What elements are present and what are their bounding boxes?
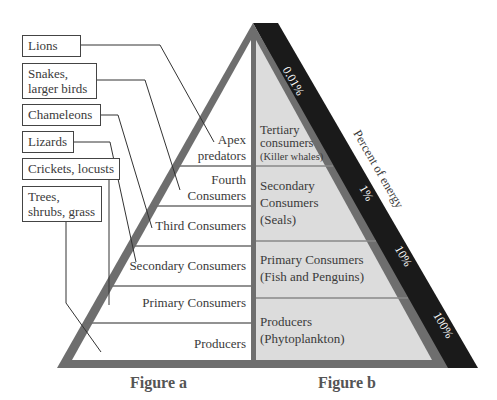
- organism-label-line1: Trees,: [28, 189, 96, 204]
- level-fourth-line1: Fourth: [211, 172, 246, 187]
- organism-box-lions: Lions: [22, 35, 81, 57]
- b-primary-line2: (Fish and Penguins): [260, 269, 364, 284]
- level-primary: Primary Consumers: [142, 295, 246, 310]
- level-third: Third Consumers: [155, 218, 246, 233]
- b-secondary-line1: Secondary: [260, 178, 315, 193]
- organism-box-trees: Trees, shrubs, grass: [22, 186, 102, 222]
- level-secondary: Secondary Consumers: [129, 258, 246, 273]
- organism-label: Lizards: [28, 134, 68, 149]
- b-producers-line1: Producers: [260, 314, 312, 329]
- b-secondary-line3: (Seals): [260, 212, 296, 227]
- b-tertiary-line1: Tertiary: [260, 123, 300, 137]
- figure-a-caption: Figure a: [130, 374, 187, 392]
- organism-label: Crickets, locusts: [28, 161, 114, 176]
- organism-label: Lions: [28, 38, 75, 53]
- level-producers: Producers: [194, 336, 246, 351]
- b-tertiary-line3: (Killer whales): [260, 151, 324, 163]
- b-primary-line1: Primary Consumers: [260, 252, 364, 267]
- b-producers-line2: (Phytoplankton): [260, 331, 345, 346]
- level-apex-line2: predators: [198, 148, 246, 163]
- organism-box-lizards: Lizards: [22, 131, 74, 153]
- center-divider: [251, 36, 256, 362]
- b-tertiary-line2: consumers: [260, 136, 314, 150]
- level-fourth-line2: Consumers: [188, 188, 247, 203]
- b-secondary-line2: Consumers: [260, 195, 319, 210]
- organism-label-line2: shrubs, grass: [28, 204, 96, 219]
- organism-label-line1: Snakes,: [28, 66, 91, 81]
- organism-box-chameleons: Chameleons: [22, 104, 101, 126]
- organism-label: Chameleons: [28, 107, 95, 122]
- organism-label-line2: larger birds: [28, 81, 91, 96]
- organism-box-snakes: Snakes, larger birds: [22, 63, 97, 99]
- level-apex-line1: Apex: [218, 132, 247, 147]
- figure-b-caption: Figure b: [318, 374, 376, 392]
- organism-box-crickets: Crickets, locusts: [22, 158, 120, 180]
